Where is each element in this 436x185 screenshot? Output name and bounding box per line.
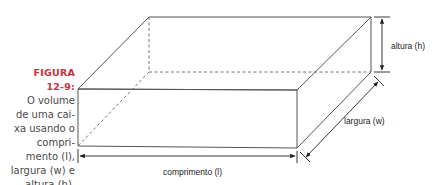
box-hidden-edges: [78, 17, 371, 146]
height-dimension: [374, 17, 390, 72]
box-diagram: altura (h) largura (w) comprimento (l): [0, 0, 436, 185]
width-label: largura (w): [344, 116, 385, 126]
length-dimension: [78, 149, 297, 163]
height-label: altura (h): [391, 41, 425, 51]
length-label: comprimento (l): [163, 167, 222, 177]
box-visible-edges: [78, 17, 371, 148]
